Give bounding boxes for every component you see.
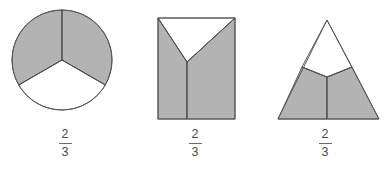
triangle-part-shaded-right [327,67,379,119]
rectangle-thirds-diagram [130,0,260,128]
figure-triangle: 2 3 [260,0,390,172]
fraction-denominator: 3 [0,146,130,159]
fraction-numerator: 2 [0,128,130,141]
fraction-label-circle: 2 3 [0,128,130,158]
fraction-denominator: 3 [260,146,390,159]
fraction-numerator: 2 [130,128,260,141]
triangle-part-unshaded-top [302,20,352,77]
figure-square: 2 3 [130,0,260,172]
figure-circle: 2 3 [0,0,130,172]
fraction-label-triangle: 2 3 [260,128,390,158]
fraction-numerator: 2 [260,128,390,141]
triangle-thirds-diagram [260,0,390,128]
figure-board: 2 3 2 3 [0,0,390,172]
triangle-part-shaded-left [278,67,327,119]
circle-thirds-diagram [0,0,130,128]
fraction-label-square: 2 3 [130,128,260,158]
fraction-bar [319,143,332,144]
fraction-bar [59,143,72,144]
fraction-bar [189,143,202,144]
fraction-denominator: 3 [130,146,260,159]
